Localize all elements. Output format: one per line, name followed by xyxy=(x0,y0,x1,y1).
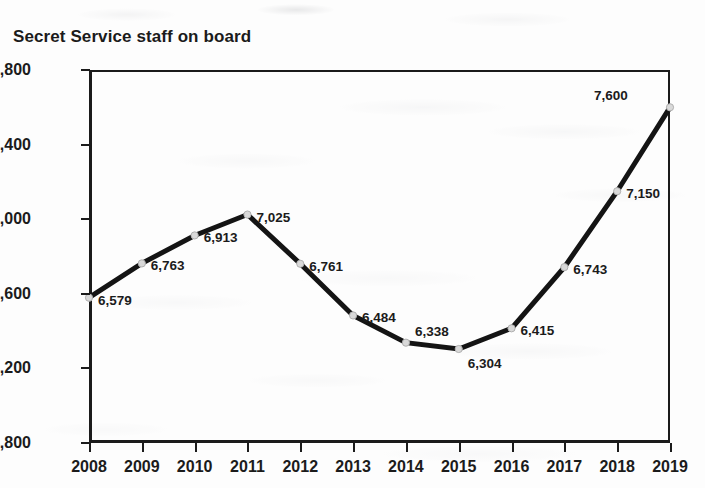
x-tick-mark xyxy=(247,443,249,452)
y-tick-label: 5,800 xyxy=(0,434,31,452)
data-point-marker xyxy=(191,232,198,239)
x-tick-label: 2015 xyxy=(441,458,477,476)
page-title: Secret Service staff on board xyxy=(13,27,251,47)
data-point-marker xyxy=(455,345,462,352)
y-tick-label: 7,800 xyxy=(0,61,31,79)
x-tick-mark xyxy=(300,443,302,452)
x-tick-mark xyxy=(89,443,91,452)
data-point-label: 7,025 xyxy=(256,209,290,224)
line-series xyxy=(89,70,670,443)
data-point-label: 6,415 xyxy=(521,323,555,338)
x-tick-label: 2009 xyxy=(124,458,160,476)
data-point-marker xyxy=(561,264,568,271)
y-tick-mark xyxy=(81,293,90,295)
data-point-label: 6,338 xyxy=(415,323,449,338)
data-point-label: 7,150 xyxy=(626,186,660,201)
x-tick-mark xyxy=(195,443,197,452)
x-tick-mark xyxy=(406,443,408,452)
y-tick-label: 6,600 xyxy=(0,285,31,303)
data-point-label: 6,484 xyxy=(362,310,396,325)
x-tick-label: 2018 xyxy=(599,458,635,476)
x-tick-mark xyxy=(142,443,144,452)
data-point-marker xyxy=(138,260,145,267)
chart-page: Secret Service staff on board 5,8006,200… xyxy=(0,0,705,488)
x-tick-mark xyxy=(670,443,672,452)
y-tick-label: 7,000 xyxy=(0,210,31,228)
x-tick-label: 2014 xyxy=(388,458,424,476)
x-tick-mark xyxy=(459,443,461,452)
x-tick-label: 2010 xyxy=(177,458,213,476)
x-tick-label: 2013 xyxy=(335,458,371,476)
data-point-label: 6,761 xyxy=(309,258,343,273)
data-point-label: 6,304 xyxy=(468,356,502,371)
data-point-marker xyxy=(349,312,356,319)
x-tick-label: 2008 xyxy=(71,458,107,476)
data-point-marker xyxy=(297,260,304,267)
data-point-marker xyxy=(614,188,621,195)
data-point-label: 6,913 xyxy=(204,230,238,245)
y-tick-label: 7,400 xyxy=(0,136,31,154)
x-tick-mark xyxy=(353,443,355,452)
x-tick-label: 2016 xyxy=(494,458,530,476)
data-point-marker xyxy=(666,104,673,111)
data-point-label: 6,579 xyxy=(98,292,132,307)
x-tick-label: 2011 xyxy=(230,458,265,476)
data-point-label: 6,763 xyxy=(151,258,185,273)
y-tick-mark xyxy=(81,144,90,146)
data-point-label: 7,600 xyxy=(594,88,628,103)
x-tick-mark xyxy=(617,443,619,452)
y-tick-mark xyxy=(81,69,90,71)
x-tick-mark xyxy=(564,443,566,452)
x-tick-mark xyxy=(512,443,514,452)
plot-area: 5,8006,2006,6007,0007,4007,8002008200920… xyxy=(89,70,670,443)
y-tick-mark xyxy=(81,367,90,369)
data-point-marker xyxy=(508,325,515,332)
data-point-marker xyxy=(244,211,251,218)
y-tick-mark xyxy=(81,218,90,220)
data-point-marker xyxy=(402,339,409,346)
y-tick-label: 6,200 xyxy=(0,359,31,377)
data-point-label: 6,743 xyxy=(573,262,607,277)
x-tick-label: 2019 xyxy=(652,458,688,476)
x-tick-label: 2012 xyxy=(282,458,318,476)
data-point-marker xyxy=(85,294,92,301)
x-tick-label: 2017 xyxy=(547,458,583,476)
